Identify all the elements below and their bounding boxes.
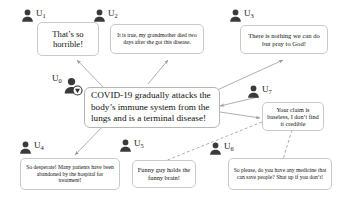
avatar-u2 bbox=[92, 8, 107, 23]
bubble-u3[interactable]: There is nothing we can do but pray to G… bbox=[240, 25, 328, 54]
bubble-u4[interactable]: So desperate! Many patients have been ab… bbox=[20, 158, 120, 190]
avatar-u1 bbox=[20, 8, 35, 23]
user-label-u2-sub: 2 bbox=[115, 12, 118, 19]
bubble-u0-source-claim[interactable]: COVID-19 gradually attacks the body’s im… bbox=[84, 87, 220, 128]
avatar-u3 bbox=[228, 8, 243, 23]
bubble-u4-text: So desperate! Many patients have been ab… bbox=[25, 164, 115, 184]
user-label-u4: U4 bbox=[34, 141, 44, 150]
user-label-u5: U5 bbox=[134, 139, 144, 148]
bubble-u7-text: Your claim is baseless, I don’t find it … bbox=[267, 106, 319, 128]
user-label-u0: U0 bbox=[52, 74, 62, 83]
edge-u0-u2 bbox=[148, 60, 168, 84]
edge-u0-u7 bbox=[220, 112, 260, 118]
user-label-u1: U1 bbox=[36, 9, 46, 18]
user-label-u6-letter: U bbox=[224, 141, 231, 151]
user-label-u3: U3 bbox=[244, 9, 254, 18]
user-label-u4-sub: 4 bbox=[41, 144, 44, 151]
user-label-u7: U7 bbox=[262, 85, 272, 94]
bubble-u7[interactable]: Your claim is baseless, I don’t find it … bbox=[262, 102, 324, 131]
avatar-u7 bbox=[246, 84, 261, 99]
bubble-u5-text: Funny guy holds the funny brain! bbox=[137, 166, 191, 181]
verified-check-icon bbox=[72, 85, 83, 96]
user-label-u3-sub: 3 bbox=[251, 12, 254, 19]
user-label-u7-letter: U bbox=[262, 84, 269, 94]
user-label-u2: U2 bbox=[108, 9, 118, 18]
bubble-u1-text: That’s so horrible! bbox=[42, 29, 94, 50]
conversation-graph: U1 That’s so horrible! U2 It is true, my… bbox=[0, 0, 344, 199]
bubble-u2[interactable]: It is true, my grandmother died two days… bbox=[110, 24, 204, 54]
user-label-u5-sub: 5 bbox=[141, 142, 144, 149]
bubble-u2-text: It is true, my grandmother died two days… bbox=[115, 32, 199, 45]
user-label-u2-letter: U bbox=[108, 8, 115, 18]
user-label-u5-letter: U bbox=[134, 138, 141, 148]
user-label-u6: U6 bbox=[224, 142, 234, 151]
user-label-u1-letter: U bbox=[36, 8, 43, 18]
user-label-u3-letter: U bbox=[244, 8, 251, 18]
bubble-u6-text: So please, do you have any medicine that… bbox=[233, 167, 327, 180]
bubble-u3-text: There is nothing we can do but pray to G… bbox=[245, 32, 323, 48]
bubble-u6[interactable]: So please, do you have any medicine that… bbox=[228, 158, 332, 190]
user-label-u4-letter: U bbox=[34, 140, 41, 150]
user-label-u6-sub: 6 bbox=[231, 145, 234, 152]
edge-u0-u1 bbox=[77, 60, 104, 88]
user-label-u0-letter: U bbox=[52, 73, 59, 83]
avatar-u5 bbox=[118, 138, 133, 153]
bubble-u1[interactable]: That’s so horrible! bbox=[37, 22, 99, 56]
user-label-u7-sub: 7 bbox=[269, 88, 272, 95]
bubble-u5[interactable]: Funny guy holds the funny brain! bbox=[132, 160, 196, 188]
user-label-u1-sub: 1 bbox=[43, 12, 46, 19]
bubble-u0-text: COVID-19 gradually attacks the body’s im… bbox=[91, 90, 213, 125]
avatar-u6 bbox=[208, 141, 223, 156]
user-label-u0-sub: 0 bbox=[59, 77, 62, 84]
avatar-u4 bbox=[18, 140, 33, 155]
